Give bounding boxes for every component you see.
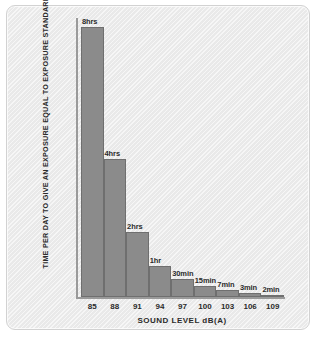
bar-rect-88 xyxy=(104,159,127,297)
bar-series: 8hrs4hrs2hrs1hr30min15min7min3min2min xyxy=(81,14,284,297)
bar-94: 1hr xyxy=(149,14,172,297)
x-tick-94: 94 xyxy=(149,302,172,311)
bar-97: 30min xyxy=(171,14,194,297)
bar-rect-94 xyxy=(149,266,172,297)
x-tick-88: 88 xyxy=(104,302,127,311)
bar-rect-100 xyxy=(194,286,217,297)
bar-rect-85 xyxy=(81,27,104,297)
x-axis-line xyxy=(76,297,285,299)
bar-value-label-91: 2hrs xyxy=(127,222,142,231)
x-tick-106: 106 xyxy=(239,302,262,311)
x-tick-85: 85 xyxy=(81,302,104,311)
x-axis-title: SOUND LEVEL dB(A) xyxy=(76,316,288,325)
bar-rect-91 xyxy=(126,232,149,297)
bar-106: 3min xyxy=(239,14,262,297)
bar-rect-109 xyxy=(261,295,284,297)
bar-value-label-85: 8hrs xyxy=(82,17,97,26)
bar-value-label-106: 3min xyxy=(240,283,257,292)
bar-value-label-94: 1hr xyxy=(150,256,161,265)
bar-100: 15min xyxy=(194,14,217,297)
bar-value-label-97: 30min xyxy=(172,269,193,278)
x-tick-97: 97 xyxy=(171,302,194,311)
bar-91: 2hrs xyxy=(126,14,149,297)
bar-rect-106 xyxy=(239,293,262,297)
bar-value-label-100: 15min xyxy=(195,276,216,285)
x-tick-103: 103 xyxy=(216,302,239,311)
bar-value-label-103: 7min xyxy=(217,280,234,289)
plot-area: 8hrs4hrs2hrs1hr30min15min7min3min2min xyxy=(76,14,286,298)
x-tick-109: 109 xyxy=(261,302,284,311)
chart-card: 8hrs4hrs2hrs1hr30min15min7min3min2min 85… xyxy=(6,5,310,330)
y-axis-line xyxy=(76,18,78,298)
y-axis-title: TIME PER DAY TO GIVE AN EXPOSURE EQUAL T… xyxy=(41,39,50,269)
bar-103: 7min xyxy=(216,14,239,297)
bar-value-label-109: 2min xyxy=(262,285,279,294)
bar-value-label-88: 4hrs xyxy=(105,149,120,158)
x-axis-tick-labels: 8588919497100103106109 xyxy=(81,302,284,314)
bar-109: 2min xyxy=(261,14,284,297)
x-tick-91: 91 xyxy=(126,302,149,311)
bar-85: 8hrs xyxy=(81,14,104,297)
x-tick-100: 100 xyxy=(194,302,217,311)
bar-rect-97 xyxy=(171,279,194,297)
bar-rect-103 xyxy=(216,290,239,297)
bar-88: 4hrs xyxy=(104,14,127,297)
